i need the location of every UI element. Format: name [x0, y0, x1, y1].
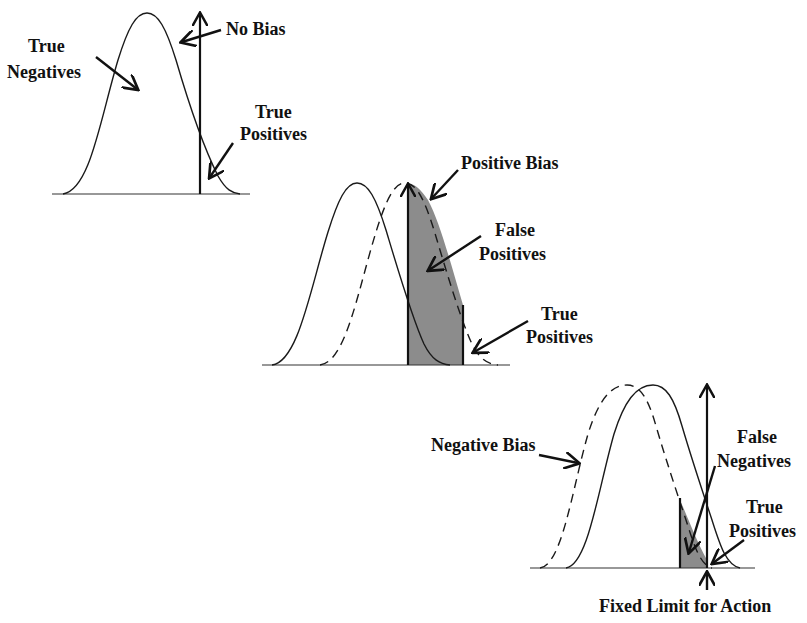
false-positives-label: Positives	[479, 244, 546, 264]
true-negatives-label: True	[28, 36, 65, 56]
false-positives-area	[408, 184, 463, 365]
negative-bias-label: Negative Bias	[431, 435, 535, 455]
panel-positive-bias: Positive Bias False Positives True Posit…	[262, 153, 593, 365]
no-bias-pointer	[182, 30, 221, 42]
false-negatives-label: False	[737, 427, 777, 447]
true-negatives-pointer	[96, 57, 137, 89]
false-negatives-label: Negatives	[717, 451, 791, 471]
false-positives-label: False	[495, 220, 535, 240]
no-bias-label: No Bias	[226, 19, 286, 39]
true-positives-label: Positives	[526, 327, 593, 347]
true-positives-label: Positives	[729, 521, 796, 541]
panel-negative-bias: Negative Bias False Negatives True Posit…	[431, 385, 796, 616]
true-positives-label: Positives	[240, 124, 307, 144]
positive-bias-label: Positive Bias	[461, 153, 559, 173]
true-positives-label: True	[746, 497, 783, 517]
bias-diagram: True Negatives No Bias True Positives Po…	[0, 0, 807, 623]
true-positives-label: True	[541, 304, 578, 324]
true-distribution-curve	[566, 385, 740, 568]
true-distribution-curve	[63, 13, 240, 194]
false-negatives-pointer	[689, 466, 715, 552]
true-positives-pointer	[474, 321, 528, 352]
fixed-limit-label: Fixed Limit for Action	[599, 596, 771, 616]
negative-bias-pointer	[539, 455, 578, 463]
true-negatives-label: Negatives	[7, 62, 81, 82]
true-positives-label: True	[255, 102, 292, 122]
panel-no-bias: True Negatives No Bias True Positives	[7, 13, 307, 194]
true-positives-pointer	[210, 143, 233, 177]
positive-bias-pointer	[432, 170, 458, 198]
